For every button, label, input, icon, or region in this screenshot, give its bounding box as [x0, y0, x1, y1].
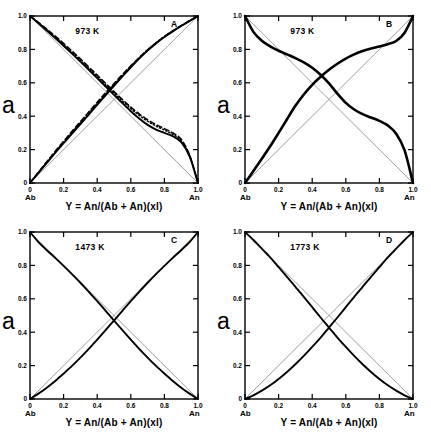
svg-text:1.0: 1.0: [193, 402, 202, 409]
panel-b-left-endmember-label: Ab: [240, 193, 251, 202]
panel-a-left-endmember-label: Ab: [25, 193, 36, 202]
svg-text:0.2: 0.2: [233, 146, 242, 153]
svg-text:1.0: 1.0: [18, 228, 27, 235]
svg-text:1.0: 1.0: [18, 12, 27, 19]
svg-text:0.4: 0.4: [308, 402, 317, 409]
panel-d-plot: 00.20.40.60.81.000.20.40.60.81.0: [215, 216, 431, 432]
svg-text:0.2: 0.2: [18, 362, 27, 369]
svg-text:0: 0: [28, 402, 32, 409]
panel-b-x-axis-title: Y = An/(Ab + An)(xl): [281, 201, 378, 212]
panel-b-right-endmember-label: An: [404, 193, 415, 202]
svg-text:0: 0: [243, 402, 247, 409]
svg-text:0.6: 0.6: [233, 295, 242, 302]
svg-text:0.2: 0.2: [233, 362, 242, 369]
panel-c: 00.20.40.60.81.000.20.40.60.81.0 a 1473 …: [0, 216, 215, 432]
svg-text:0.4: 0.4: [233, 329, 242, 336]
svg-text:0.2: 0.2: [18, 146, 27, 153]
panel-b-y-axis-label: a: [217, 94, 230, 117]
svg-text:0.8: 0.8: [375, 186, 384, 193]
panel-c-left-endmember-label: Ab: [25, 409, 36, 418]
svg-text:0.8: 0.8: [375, 402, 384, 409]
svg-text:0.4: 0.4: [93, 402, 102, 409]
panel-c-right-endmember-label: An: [189, 409, 200, 418]
svg-text:0.8: 0.8: [18, 262, 27, 269]
panel-c-id-label: C: [171, 235, 177, 245]
svg-text:0: 0: [23, 179, 27, 186]
svg-text:1.0: 1.0: [193, 186, 202, 193]
panel-d: 00.20.40.60.81.000.20.40.60.81.0 a 1773 …: [215, 216, 431, 432]
svg-text:0.6: 0.6: [18, 79, 27, 86]
svg-text:0.6: 0.6: [18, 295, 27, 302]
svg-text:0.4: 0.4: [18, 113, 27, 120]
panel-a: 00.20.40.60.81.000.20.40.60.81.0 a 973 K…: [0, 0, 215, 216]
svg-text:0.8: 0.8: [233, 46, 242, 53]
svg-text:0.2: 0.2: [274, 186, 283, 193]
panel-d-y-axis-label: a: [217, 310, 230, 333]
panel-d-id-label: D: [386, 235, 392, 245]
svg-text:0.4: 0.4: [18, 329, 27, 336]
svg-text:0.4: 0.4: [308, 186, 317, 193]
svg-text:0.8: 0.8: [233, 262, 242, 269]
svg-text:0.6: 0.6: [126, 186, 135, 193]
svg-text:0.4: 0.4: [233, 113, 242, 120]
svg-text:0.2: 0.2: [59, 186, 68, 193]
svg-text:0: 0: [28, 186, 32, 193]
panel-d-temperature-label: 1773 K: [290, 242, 319, 252]
svg-text:0.8: 0.8: [18, 46, 27, 53]
panel-d-x-axis-title: Y = An/(Ab + An)(xl): [281, 417, 378, 428]
svg-text:0: 0: [23, 395, 27, 402]
svg-text:0.2: 0.2: [274, 402, 283, 409]
panel-c-temperature-label: 1473 K: [75, 242, 104, 252]
panel-b-temperature-label: 973 K: [290, 26, 314, 36]
panel-a-temperature-label: 973 K: [75, 26, 99, 36]
panel-d-left-endmember-label: Ab: [240, 409, 251, 418]
panel-a-x-axis-title: Y = An/(Ab + An)(xl): [66, 201, 163, 212]
svg-text:0.8: 0.8: [160, 186, 169, 193]
svg-text:0.6: 0.6: [341, 186, 350, 193]
svg-text:0: 0: [238, 179, 242, 186]
figure-panel-grid: 00.20.40.60.81.000.20.40.60.81.0 a 973 K…: [0, 0, 431, 432]
svg-text:0.2: 0.2: [59, 402, 68, 409]
svg-text:1.0: 1.0: [408, 402, 417, 409]
panel-c-x-axis-title: Y = An/(Ab + An)(xl): [66, 417, 163, 428]
panel-b: 00.20.40.60.81.000.20.40.60.81.0 a 973 K…: [215, 0, 431, 216]
panel-a-plot: 00.20.40.60.81.000.20.40.60.81.0: [0, 0, 215, 216]
svg-text:0: 0: [243, 186, 247, 193]
svg-text:0.6: 0.6: [233, 79, 242, 86]
panel-b-plot: 00.20.40.60.81.000.20.40.60.81.0: [215, 0, 431, 216]
panel-a-id-label: A: [171, 19, 177, 29]
svg-text:0.4: 0.4: [93, 186, 102, 193]
panel-b-id-label: B: [386, 19, 392, 29]
svg-text:0.6: 0.6: [126, 402, 135, 409]
panel-d-right-endmember-label: An: [404, 409, 415, 418]
panel-c-plot: 00.20.40.60.81.000.20.40.60.81.0: [0, 216, 215, 432]
panel-a-right-endmember-label: An: [189, 193, 200, 202]
svg-text:1.0: 1.0: [233, 228, 242, 235]
svg-text:0: 0: [238, 395, 242, 402]
svg-text:0.6: 0.6: [341, 402, 350, 409]
svg-text:1.0: 1.0: [233, 12, 242, 19]
panel-a-y-axis-label: a: [2, 94, 15, 117]
svg-text:1.0: 1.0: [408, 186, 417, 193]
svg-text:0.8: 0.8: [160, 402, 169, 409]
panel-c-y-axis-label: a: [2, 310, 15, 333]
